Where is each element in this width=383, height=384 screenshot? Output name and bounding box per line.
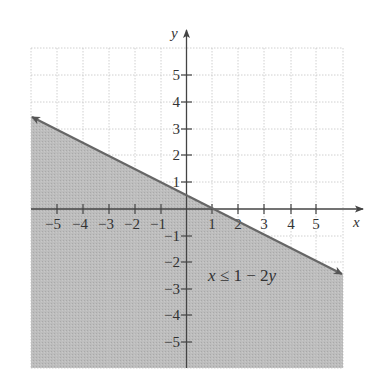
y-tick-label: −1 — [164, 228, 180, 244]
y-tick-label: 4 — [173, 94, 181, 110]
x-tick-label: 5 — [312, 216, 320, 232]
y-tick-label: 3 — [173, 121, 181, 137]
x-tick-label: 4 — [287, 216, 295, 232]
x-tick-label: 1 — [208, 216, 216, 232]
y-tick-label: 5 — [173, 67, 181, 83]
inequality-label: x ≤ 1 − 2y — [207, 266, 276, 285]
x-tick-label: 3 — [260, 216, 268, 232]
x-tick-label: −3 — [98, 216, 114, 232]
x-tick-label: −5 — [45, 216, 61, 232]
inequality-relation: ≤ 1 − 2 — [216, 266, 269, 285]
inequality-graph: −5 −4 −3 −2 −1 1 2 3 4 5 5 4 3 2 1 −1 −2… — [0, 0, 383, 384]
x-axis-label: x — [352, 214, 360, 230]
y-tick-label: −5 — [164, 334, 180, 350]
y-tick-label: −4 — [164, 307, 180, 323]
y-tick-label: −3 — [164, 281, 180, 297]
x-tick-label: 2 — [234, 216, 242, 232]
y-tick-label: 2 — [173, 147, 181, 163]
y-tick-label: −2 — [164, 254, 180, 270]
y-axis-label: y — [169, 25, 178, 41]
inequality-variable: y — [266, 266, 276, 285]
x-tick-label: −4 — [72, 216, 88, 232]
x-tick-label: −2 — [124, 216, 140, 232]
